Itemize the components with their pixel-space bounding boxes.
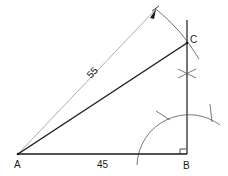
label-base-length: 45 xyxy=(97,159,109,170)
point-C xyxy=(186,42,189,45)
label-A: A xyxy=(14,159,21,170)
arc-intersection-mark xyxy=(156,111,170,120)
hypotenuse-AC xyxy=(18,43,187,154)
hypotenuse-dimension-line xyxy=(18,9,156,154)
label-C: C xyxy=(190,34,197,45)
compass-arc-base xyxy=(137,115,220,165)
triangle-construction-diagram: A B C 45 55 xyxy=(0,0,228,176)
point-A xyxy=(17,153,20,156)
label-B: B xyxy=(183,160,190,171)
label-hypotenuse-length: 55 xyxy=(85,64,101,80)
